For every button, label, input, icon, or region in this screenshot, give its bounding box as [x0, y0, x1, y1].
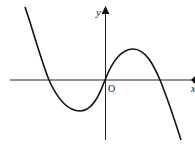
origin-label: O [108, 83, 115, 94]
y-axis-label: y [95, 6, 101, 18]
graph-canvas: y O x [0, 0, 195, 146]
y-axis-arrow-icon [102, 6, 110, 14]
cubic-curve [25, 7, 181, 140]
x-axis-label: x [190, 83, 195, 94]
